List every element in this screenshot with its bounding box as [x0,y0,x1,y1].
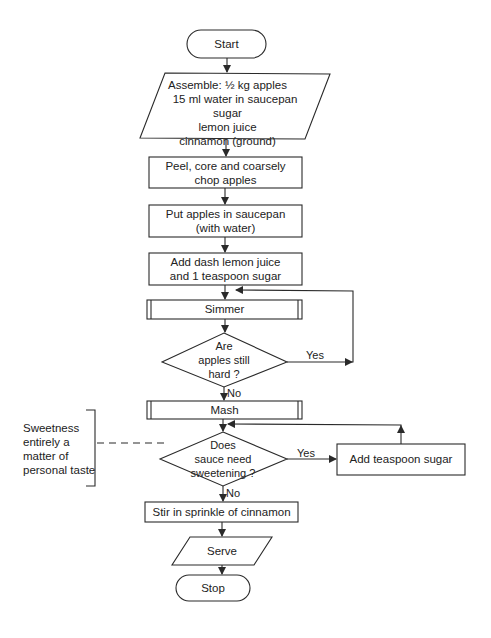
hard-line-3: hard ? [174,367,274,381]
assemble-line-5: cinnamon (ground) [160,134,295,148]
add-dash-line-2: and 1 teaspoon sugar [149,269,302,283]
sweeten-line-2: sauce need [173,452,273,466]
mash-label: Mash [147,403,302,417]
simmer-label: Simmer [147,302,302,316]
hard-line-2: apples still [174,353,274,367]
stop-label: Stop [176,581,250,595]
hard-line-1: Are [174,339,274,353]
sweeten-no-label: No [226,486,240,500]
stir-label: Stir in sprinkle of cinnamon [145,505,298,519]
assemble-line-1: Assemble: ½ kg apples [160,78,323,92]
annotation-line-1: Sweetness [23,421,95,435]
peel-line-2: chop apples [149,173,302,187]
assemble-label: Assemble: ½ kg apples 15 ml water in sau… [160,78,310,148]
hard-no-label: No [227,386,241,400]
add-sugar-label: Add teaspoon sugar [337,452,465,466]
annotation-line-2: entirely a [23,435,95,449]
put-line-2: (with water) [149,221,302,235]
annotation-line-4: personal taste [23,463,95,477]
sweeten-line-3: sweetening ? [173,466,273,480]
put-line-1: Put apples in saucepan [149,207,302,221]
assemble-line-3: sugar [160,106,295,120]
serve-label: Serve [172,544,272,558]
assemble-line-2: 15 ml water in saucepan [160,92,310,106]
hard-yes-label: Yes [306,348,324,362]
start-label: Start [187,37,266,51]
peel-line-1: Peel, core and coarsely [149,159,302,173]
assemble-line-4: lemon juice [160,120,295,134]
annotation-line-3: matter of [23,449,95,463]
sweeten-line-1: Does [173,438,273,452]
annotation-text: Sweetness entirely a matter of personal … [23,421,95,477]
sweeten-yes-label: Yes [297,446,315,460]
add-dash-line-1: Add dash lemon juice [149,255,302,269]
